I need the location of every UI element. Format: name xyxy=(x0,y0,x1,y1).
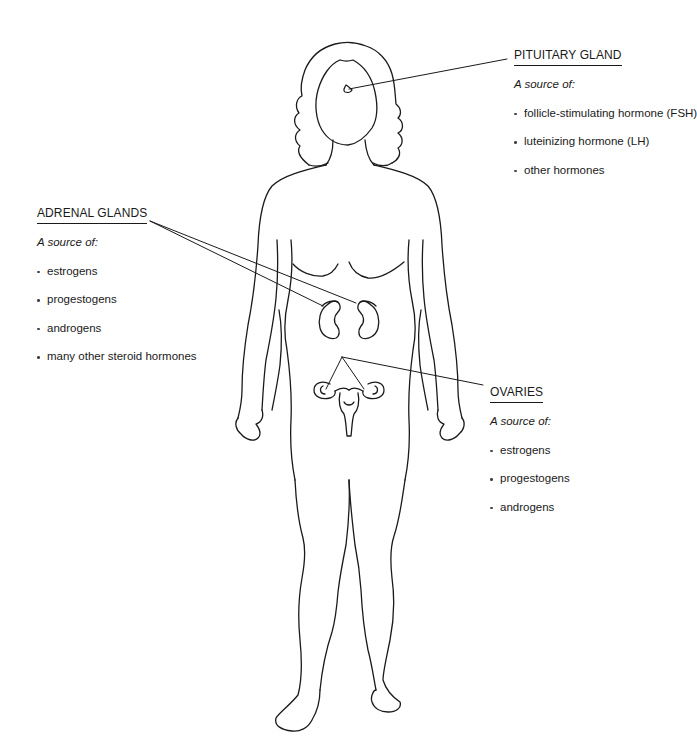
list-item: many other steroid hormones xyxy=(37,351,197,363)
adrenal-glands-label: ADRENAL GLANDS A source of: estrogens pr… xyxy=(37,207,197,363)
torso-outline xyxy=(236,165,464,480)
list-item: estrogens xyxy=(37,266,197,278)
legs-outline xyxy=(276,480,405,731)
ovaries-uterus-shape xyxy=(314,382,384,436)
face-outline xyxy=(316,60,377,145)
list-item: luteinizing hormone (LH) xyxy=(514,136,697,148)
list-item: androgens xyxy=(37,323,197,335)
adrenal-glands-shape xyxy=(319,301,378,339)
ovaries-leader-line-3 xyxy=(342,357,483,385)
list-item: androgens xyxy=(490,502,570,514)
neck-outline xyxy=(326,140,374,165)
pituitary-hormone-list: follicle-stimulating hormone (FSH) lutei… xyxy=(514,108,697,177)
pituitary-gland-label: PITUITARY GLAND A source of: follicle-st… xyxy=(514,49,697,176)
pituitary-gland-subtitle: A source of: xyxy=(514,79,697,91)
list-item: estrogens xyxy=(490,445,570,457)
ovaries-heading: OVARIES xyxy=(490,386,543,403)
adrenal-glands-subtitle: A source of: xyxy=(37,237,197,249)
ovaries-label: OVARIES A source of: estrogens progestog… xyxy=(490,386,570,513)
adrenal-hormone-list: estrogens progestogens androgens many ot… xyxy=(37,266,197,363)
list-item: other hormones xyxy=(514,165,697,177)
pituitary-leader-line xyxy=(349,59,507,89)
adrenal-glands-heading: ADRENAL GLANDS xyxy=(37,207,147,224)
leader-lines xyxy=(150,59,507,389)
pituitary-gland-heading: PITUITARY GLAND xyxy=(514,49,622,66)
ovaries-leader-line-1 xyxy=(326,357,342,389)
ovaries-hormone-list: estrogens progestogens androgens xyxy=(490,445,570,514)
list-item: progestogens xyxy=(37,294,197,306)
ovaries-subtitle: A source of: xyxy=(490,416,570,428)
list-item: follicle-stimulating hormone (FSH) xyxy=(514,108,697,120)
ovaries-leader-line-2 xyxy=(342,357,364,389)
list-item: progestogens xyxy=(490,473,570,485)
